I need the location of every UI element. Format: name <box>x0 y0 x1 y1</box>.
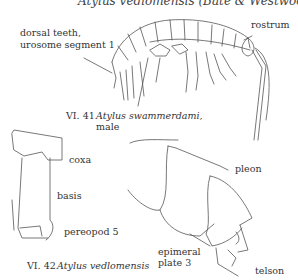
label-telson: telson <box>255 265 284 276</box>
figure-41-sex: male <box>96 121 119 132</box>
label-pereopod: pereopod 5 <box>64 226 119 237</box>
figure-42-species: Atylus vedlomensis <box>57 260 149 271</box>
figure-41-species: Atylus swammerdami, <box>96 110 203 121</box>
amphipod-swammerdami-drawing <box>112 20 269 140</box>
leader-dorsal-teeth <box>84 58 112 73</box>
label-coxa: coxa <box>69 154 91 165</box>
label-urosome-segment: urosome segment 1 <box>20 39 115 50</box>
figure-41-number: VI. 41 <box>66 110 95 121</box>
label-rostrum: rostrum <box>251 19 290 30</box>
label-dorsal-teeth: dorsal teeth, <box>20 27 81 38</box>
label-plate-3: plate 3 <box>158 257 191 268</box>
label-epimeral: epimeral <box>158 246 201 257</box>
pereopod-drawing <box>12 130 62 240</box>
figure-42-number: VI. 42 <box>27 260 56 271</box>
label-basis: basis <box>57 190 82 201</box>
label-pleon: pleon <box>235 163 262 174</box>
